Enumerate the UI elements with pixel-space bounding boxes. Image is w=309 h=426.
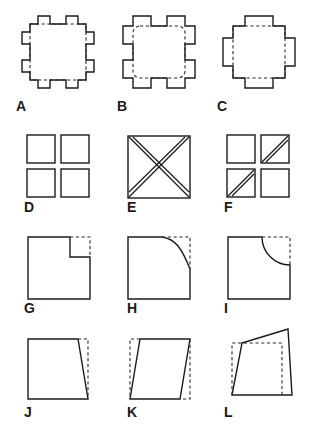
shape-cell-i	[226, 235, 292, 301]
shape-f-drawing	[226, 134, 290, 198]
shape-cell-l	[226, 327, 298, 405]
shape-e-drawing	[126, 134, 192, 200]
shape-c-drawing	[217, 10, 301, 94]
shape-cell-k	[126, 335, 196, 405]
shape-label-a: A	[16, 99, 26, 113]
shape-label-k: K	[127, 405, 137, 419]
shape-label-l: L	[224, 405, 233, 419]
shape-h-drawing	[126, 235, 192, 301]
shape-a-drawing	[16, 10, 100, 94]
shape-label-c: C	[217, 99, 227, 113]
shape-label-h: H	[127, 301, 137, 315]
shape-cell-c	[217, 10, 301, 94]
shape-cell-a	[16, 10, 100, 94]
shape-label-i: I	[224, 301, 228, 315]
shape-label-b: B	[117, 99, 127, 113]
shape-label-g: G	[24, 301, 35, 315]
shape-b-drawing	[117, 10, 201, 94]
shape-l-drawing	[226, 327, 298, 405]
shape-figure: A B C D	[0, 0, 309, 426]
shape-k-drawing	[126, 335, 196, 405]
shape-i-drawing	[226, 235, 292, 301]
shape-d-drawing	[26, 134, 90, 198]
shape-cell-h	[126, 235, 192, 301]
shape-cell-g	[26, 235, 92, 301]
shape-g-drawing	[26, 235, 92, 301]
shape-label-f: F	[224, 200, 233, 214]
shape-label-d: D	[24, 200, 34, 214]
shape-label-j: J	[24, 405, 32, 419]
shape-cell-b	[117, 10, 201, 94]
shape-label-e: E	[127, 200, 136, 214]
shape-cell-d	[26, 134, 90, 198]
shape-cell-f	[226, 134, 290, 198]
shape-j-drawing	[26, 335, 92, 405]
shape-cell-j	[26, 335, 92, 405]
shape-cell-e	[126, 134, 192, 200]
